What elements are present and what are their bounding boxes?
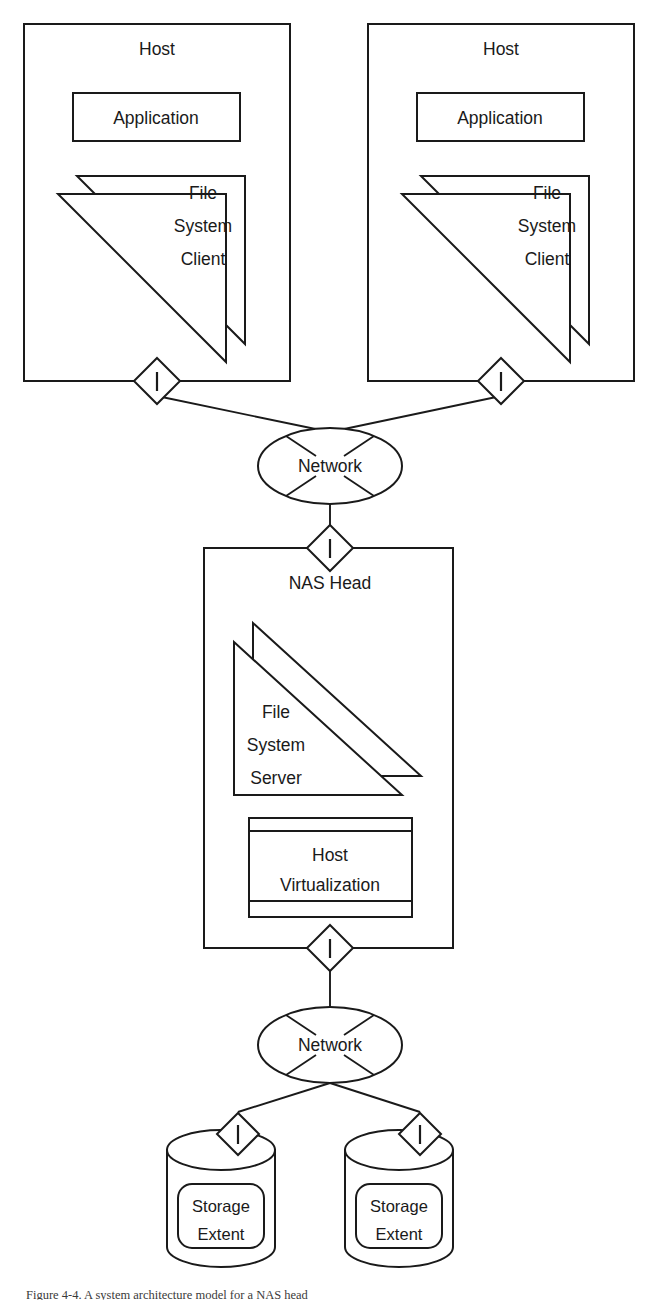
- network-top-label: Network: [298, 456, 362, 476]
- host-right-fsclient-line-3: Client: [525, 249, 570, 269]
- link-host-right-to-network-top: [330, 396, 501, 432]
- link-host-left-to-network-top: [157, 396, 330, 432]
- host-left-fsclient-line-2: System: [174, 216, 232, 236]
- host-right-application-label: Application: [457, 108, 543, 128]
- figure-caption: Figure 4-4. A system architecture model …: [0, 1288, 660, 1300]
- nas-head-fsserver-line-2: System: [247, 735, 305, 755]
- host-left-application-label: Application: [113, 108, 199, 128]
- host-left-group: Host Application File System Client: [24, 24, 290, 381]
- storage-extent-right-line-2: Extent: [376, 1225, 423, 1243]
- diagram-svg: Host Application File System Client Host…: [0, 0, 660, 1300]
- storage-extent-right-group: Storage Extent: [345, 1130, 453, 1267]
- network-bottom-label: Network: [298, 1035, 362, 1055]
- storage-extent-left-line-1: Storage: [192, 1197, 250, 1215]
- network-bottom-group: Network: [258, 1007, 402, 1083]
- host-left-fsclient-line-1: File: [189, 183, 217, 203]
- storage-extent-left-line-2: Extent: [198, 1225, 245, 1243]
- nas-head-host-virtualization-line-2: Virtualization: [280, 875, 380, 895]
- diagram-canvas: Host Application File System Client Host…: [0, 0, 660, 1300]
- host-right-label: Host: [483, 39, 519, 59]
- nas-head-fsserver-line-1: File: [262, 702, 290, 722]
- nas-head-fsserver-line-3: Server: [250, 768, 302, 788]
- storage-extent-right-line-1: Storage: [370, 1197, 428, 1215]
- link-network-bottom-to-storage-left: [238, 1083, 330, 1112]
- nas-head-group: NAS Head File System Server Host Virtual…: [204, 548, 453, 948]
- nas-head-host-virtualization-line-1: Host: [312, 845, 348, 865]
- nas-head-host-virtualization-box: [249, 818, 412, 917]
- host-right-fsclient-line-1: File: [533, 183, 561, 203]
- host-right-fsclient-line-2: System: [518, 216, 576, 236]
- host-left-label: Host: [139, 39, 175, 59]
- link-network-bottom-to-storage-right: [330, 1083, 420, 1112]
- nas-head-label: NAS Head: [289, 573, 372, 593]
- network-top-group: Network: [258, 428, 402, 504]
- host-right-group: Host Application File System Client: [368, 24, 634, 381]
- host-left-fsclient-line-3: Client: [181, 249, 226, 269]
- storage-extent-left-group: Storage Extent: [167, 1130, 275, 1267]
